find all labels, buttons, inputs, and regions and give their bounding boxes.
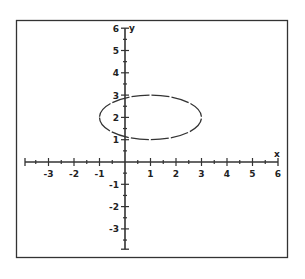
x-tick-label: -1 [95,169,105,179]
x-tick-label: 6 [275,169,281,179]
y-tick-label: -1 [109,180,119,190]
x-axis-label: x [274,149,280,159]
y-tick-label: 2 [113,113,119,123]
coordinate-plane-chart: -3-2-1123456-3-2-1123456 x y [0,0,305,279]
x-tick-label: 4 [224,169,230,179]
y-tick-label: 4 [113,68,119,78]
y-tick-label: 5 [113,46,119,56]
y-tick-label: -3 [109,224,119,234]
y-tick-label: -2 [109,202,119,212]
x-tick-label: 5 [249,169,255,179]
plot-frame [17,21,288,258]
x-tick-label: -3 [44,169,54,179]
x-tick-label: 3 [198,169,204,179]
x-tick-label: -2 [69,169,79,179]
x-tick-label: 2 [173,169,179,179]
y-tick-label: 1 [113,135,119,145]
y-tick-label: 6 [113,24,119,34]
x-tick-label: 1 [147,169,153,179]
y-tick-label: 3 [113,91,119,101]
y-axis-label: y [129,23,135,33]
